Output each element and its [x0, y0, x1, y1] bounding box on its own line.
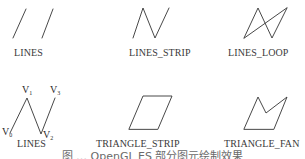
primitive-diagram: LINES LINES_STRIP LINES_LOOP V1 V3 V0 V2…	[0, 0, 305, 159]
panel-lines-strip-shape	[133, 8, 169, 38]
panel-lines-shape	[13, 9, 53, 38]
label-triangle-strip: TRIANGLE_STRIP	[96, 139, 180, 149]
panel-triangle-fan-shape	[244, 97, 287, 129]
label-lines-loop: LINES_LOOP	[228, 48, 288, 58]
vertex-label-v0: V0	[2, 127, 12, 140]
vertex-label-v1: V1	[22, 85, 32, 98]
vertex-label-v3: V3	[50, 85, 60, 98]
label-lines-strip: LINES_STRIP	[129, 48, 191, 58]
label-triangle-fan: TRIANGLE_FAN	[224, 139, 299, 149]
panel-triangle-strip-shape	[129, 96, 172, 129]
figure-caption: 图 … OpenGL ES 部分图元绘制效果	[0, 151, 305, 159]
label-lines: LINES	[14, 48, 43, 58]
label-lines-vertices: LINES	[17, 139, 46, 149]
panel-lines-loop-shape	[244, 8, 287, 38]
